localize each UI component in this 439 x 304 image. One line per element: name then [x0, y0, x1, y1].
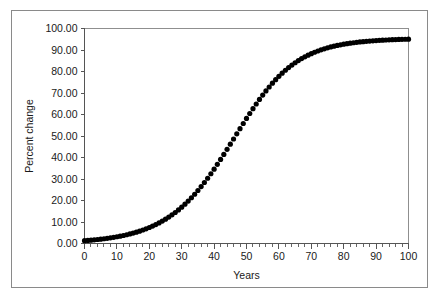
x-axis-tick-labels: 0102030405060708090100 [82, 250, 418, 262]
data-point [202, 180, 207, 185]
data-point [234, 131, 239, 136]
y-tick-label: 50.00 [51, 130, 77, 142]
y-tick-label: 100.00 [45, 22, 77, 34]
data-point [254, 101, 259, 106]
x-axis-major-ticks [85, 244, 409, 249]
x-tick-label: 40 [208, 250, 220, 262]
y-tick-label: 60.00 [51, 108, 77, 120]
chart-area: 0.0010.0020.0030.0040.0050.0060.0070.008… [0, 0, 439, 304]
y-tick-label: 30.00 [51, 173, 77, 185]
data-point [224, 147, 229, 152]
x-tick-label: 50 [241, 250, 253, 262]
x-tick-label: 60 [273, 250, 285, 262]
data-point [257, 97, 262, 102]
data-point [260, 93, 265, 98]
data-point [247, 111, 252, 116]
x-axis-title: Years [233, 269, 259, 281]
data-point [237, 126, 242, 131]
data-point [406, 37, 411, 42]
x-tick-label: 90 [370, 250, 382, 262]
x-tick-label: 0 [82, 250, 88, 262]
data-point [212, 167, 217, 172]
y-tick-label: 40.00 [51, 151, 77, 163]
y-tick-label: 80.00 [51, 65, 77, 77]
data-point [215, 162, 220, 167]
y-axis-tick-labels: 0.0010.0020.0030.0040.0050.0060.0070.008… [45, 22, 77, 249]
x-tick-label: 10 [111, 250, 123, 262]
x-tick-label: 100 [400, 250, 418, 262]
data-point [241, 121, 246, 126]
data-point [208, 171, 213, 176]
data-point [218, 157, 223, 162]
x-tick-label: 20 [143, 250, 155, 262]
data-point [221, 152, 226, 157]
y-axis-ticks [81, 29, 85, 244]
x-tick-label: 70 [305, 250, 317, 262]
data-point-series [82, 37, 411, 244]
data-point [228, 142, 233, 147]
data-point [199, 184, 204, 189]
data-point [244, 116, 249, 121]
y-tick-label: 0.00 [57, 237, 78, 249]
x-tick-label: 80 [338, 250, 350, 262]
y-tick-label: 90.00 [51, 44, 77, 56]
y-tick-label: 20.00 [51, 194, 77, 206]
y-tick-label: 70.00 [51, 87, 77, 99]
data-point [231, 136, 236, 141]
y-axis-title: Percent change [23, 99, 35, 173]
y-tick-label: 10.00 [51, 216, 77, 228]
data-point [205, 176, 210, 181]
x-tick-label: 30 [176, 250, 188, 262]
data-point [250, 106, 255, 111]
chart-svg: 0.0010.0020.0030.0040.0050.0060.0070.008… [0, 0, 439, 304]
